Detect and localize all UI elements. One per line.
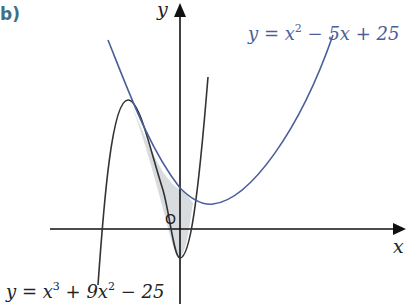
parabola-equation: y = x2 − 5x + 25 [248, 22, 399, 44]
y-axis-label: y [157, 0, 168, 20]
graph [0, 0, 407, 304]
cubic-eq-mid: + 9x [60, 281, 108, 302]
x-axis-label: x [393, 235, 404, 257]
cubic-eq-exp2: 2 [108, 280, 115, 293]
parabola-eq-suffix: − 5x + 25 [302, 23, 400, 44]
shaded-region [130, 101, 193, 258]
cubic-eq-prefix: y = x [6, 281, 53, 302]
cubic-eq-suffix: − 25 [115, 281, 164, 302]
y-axis-arrow-icon [174, 3, 186, 17]
parabola-eq-prefix: y = x [248, 23, 295, 44]
origin-label: O [165, 211, 176, 227]
cubic-equation: y = x3 + 9x2 − 25 [6, 280, 164, 302]
parabola-eq-exp: 2 [295, 22, 302, 35]
cubic-eq-exp1: 3 [53, 280, 60, 293]
x-axis-arrow-icon [393, 223, 406, 235]
cubic-curve [98, 77, 208, 285]
